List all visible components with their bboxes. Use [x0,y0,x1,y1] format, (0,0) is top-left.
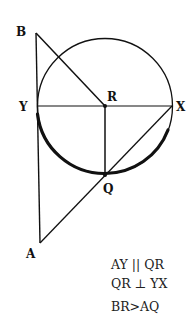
label-a: A [25,247,36,261]
label-x: X [176,100,186,114]
given-statements: AY || QR QR ⊥ YX BR>AQ [111,255,168,316]
point-r [103,104,107,108]
point-q [103,173,107,177]
segment-br [36,33,105,106]
label-r: R [107,90,118,104]
note-perpendicular: QR ⊥ YX [111,274,168,293]
thick-arc-yq [38,114,169,174]
label-b: B [16,25,26,39]
label-q: Q [103,182,113,196]
note-parallel: AY || QR [111,255,168,274]
label-y: Y [18,100,28,114]
segment-ba [36,33,40,243]
note-inequality: BR>AQ [111,297,168,316]
